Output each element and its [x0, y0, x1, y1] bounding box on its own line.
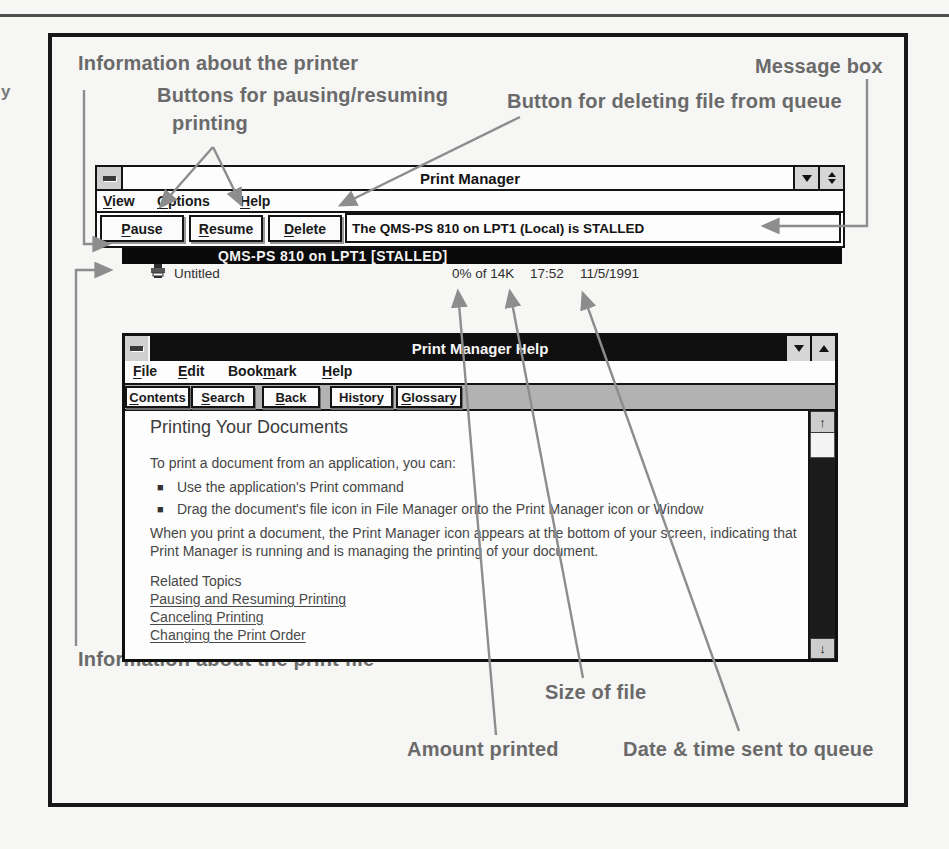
scrollbar-thumb[interactable]: [810, 433, 835, 458]
help-topic-heading: Printing Your Documents: [150, 417, 348, 438]
help-menu-help[interactable]: Help: [322, 363, 352, 379]
bullet-icon: ■: [157, 481, 177, 493]
job-date: 11/5/1991: [580, 266, 639, 281]
help-content: Printing Your Documents To print a docum…: [125, 411, 808, 659]
restore-up-icon: [828, 172, 836, 177]
book-page-scan: { "page": { "margin_fragment": "y" }, "c…: [0, 0, 949, 849]
job-time: 17:52: [530, 266, 564, 281]
scrollbar-shaft[interactable]: [810, 458, 835, 638]
delete-button[interactable]: Delete: [268, 215, 342, 242]
contents-button[interactable]: Contents: [125, 386, 190, 408]
job-name: Untitled: [174, 266, 220, 281]
help-intro-text: To print a document from an application,…: [150, 455, 456, 471]
help-minimize-icon: [794, 345, 804, 352]
help-bullet-1: ■Use the application's Print command: [157, 479, 404, 495]
help-menu-bookmark[interactable]: Bookmark: [228, 363, 296, 379]
help-toolbar: Contents Search Back History Glossary: [125, 385, 835, 411]
link-print-order[interactable]: Changing the Print Order: [150, 627, 306, 643]
vertical-scrollbar[interactable]: ↑ ↓: [808, 411, 835, 659]
help-paragraph: When you print a document, the Print Man…: [150, 524, 815, 560]
scroll-down-button[interactable]: ↓: [810, 638, 835, 659]
help-maximize-button[interactable]: [810, 336, 835, 361]
pause-button[interactable]: Pause: [100, 215, 184, 242]
scroll-up-icon: ↑: [819, 415, 826, 430]
related-topics-heading: Related Topics: [150, 573, 242, 589]
link-canceling[interactable]: Canceling Printing: [150, 609, 264, 625]
link-pausing-resuming[interactable]: Pausing and Resuming Printing: [150, 591, 346, 607]
bullet-icon: ■: [157, 503, 177, 515]
print-manager-titlebar[interactable]: Print Manager: [97, 167, 843, 191]
glossary-button[interactable]: Glossary: [396, 386, 462, 408]
menu-view[interactable]: View: [103, 193, 135, 209]
callout-pause-resume-1: Buttons for pausing/resuming: [157, 84, 448, 107]
help-window: Print Manager Help File Edit Bookmark He…: [122, 333, 838, 662]
back-button[interactable]: Back: [262, 386, 320, 408]
margin-text-fragment: y: [1, 82, 10, 102]
help-maximize-icon: [819, 345, 829, 352]
print-manager-window: Print Manager View Options Help Pause Re…: [95, 165, 845, 248]
help-window-title: Print Manager Help: [125, 336, 835, 361]
callout-amount-printed: Amount printed: [407, 738, 559, 761]
help-menu-file[interactable]: File: [133, 363, 157, 379]
callout-file-size: Size of file: [545, 681, 646, 704]
window-title: Print Manager: [97, 167, 843, 189]
callout-pause-resume-2: printing: [172, 112, 248, 135]
callout-printer-info: Information about the printer: [78, 52, 358, 75]
page-top-rule: [0, 14, 949, 17]
resume-button[interactable]: Resume: [189, 215, 263, 242]
menu-options[interactable]: Options: [157, 193, 210, 209]
scroll-down-icon: ↓: [819, 641, 826, 656]
help-bullet-2: ■Drag the document's file icon in File M…: [157, 501, 703, 517]
scroll-up-button[interactable]: ↑: [810, 411, 835, 433]
restore-button[interactable]: [818, 167, 843, 189]
history-button[interactable]: History: [330, 386, 393, 408]
help-menubar: File Edit Bookmark Help: [125, 361, 835, 385]
print-manager-menubar: View Options Help: [97, 191, 843, 213]
callout-delete-button: Button for deleting file from queue: [507, 90, 842, 113]
restore-down-icon: [828, 179, 836, 184]
callout-date-time: Date & time sent to queue: [623, 738, 874, 761]
menu-help[interactable]: Help: [240, 193, 270, 209]
minimize-icon: [802, 175, 812, 182]
help-titlebar[interactable]: Print Manager Help: [125, 336, 835, 361]
printer-icon: [150, 264, 166, 282]
print-job-row[interactable]: Untitled 0% of 14K 17:52 11/5/1991: [122, 264, 842, 282]
print-manager-toolbar: Pause Resume Delete The QMS-PS 810 on LP…: [97, 213, 843, 246]
search-button[interactable]: Search: [191, 386, 255, 408]
callout-message-box: Message box: [755, 55, 883, 78]
help-menu-edit[interactable]: Edit: [178, 363, 204, 379]
printer-status-row[interactable]: QMS-PS 810 on LPT1 [STALLED]: [122, 248, 842, 264]
minimize-button[interactable]: [793, 167, 818, 189]
help-minimize-button[interactable]: [785, 336, 810, 361]
job-progress: 0% of 14K: [452, 266, 514, 281]
status-message-box: The QMS-PS 810 on LPT1 (Local) is STALLE…: [345, 213, 841, 243]
status-message-text: The QMS-PS 810 on LPT1 (Local) is STALLE…: [352, 221, 644, 236]
